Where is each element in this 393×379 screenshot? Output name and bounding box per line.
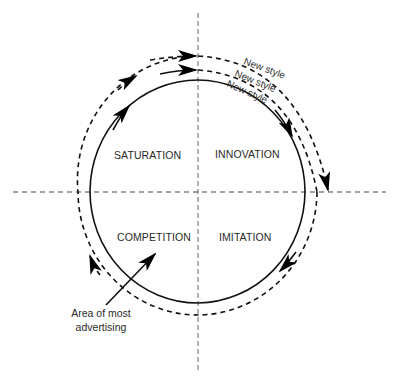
label-saturation: SATURATION bbox=[114, 149, 181, 161]
label-imitation: IMITATION bbox=[219, 231, 271, 243]
outer-cycle bbox=[77, 56, 317, 315]
inner-arrow-upper-left bbox=[113, 106, 129, 130]
outer-arrow-upper-left bbox=[118, 76, 136, 90]
fashion-cycle-diagram: New style New style New style SATURATION… bbox=[0, 0, 393, 379]
annotation-line-1: Area of most bbox=[71, 307, 131, 319]
new-style-branch-middle bbox=[198, 70, 317, 192]
label-competition: COMPETITION bbox=[117, 231, 191, 243]
inner-arrow-lower-right bbox=[280, 252, 296, 271]
label-innovation: INNOVATION bbox=[215, 148, 280, 160]
inner-arrow-top bbox=[160, 70, 196, 74]
new-style-branch-outer bbox=[198, 56, 328, 190]
annotation-line-2: advertising bbox=[76, 321, 127, 333]
